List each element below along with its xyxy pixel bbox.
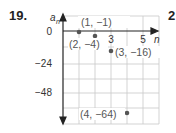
x-tick-3: 3: [108, 34, 114, 45]
scatter-plot: a n 0 −24 −48 3 5 n (1, −1) (2, −4) (3, …: [0, 0, 176, 133]
point-label-2: (2, −4): [69, 38, 100, 50]
point-label-3: (3, −16): [115, 46, 151, 58]
point-label-4: (4, −64): [80, 108, 116, 120]
y-tick-neg48: −48: [35, 87, 52, 98]
point-4: [125, 111, 130, 116]
y-axis-label-subscript: n: [56, 18, 60, 25]
point-1: [77, 30, 82, 35]
x-axis-label: n: [154, 34, 160, 45]
y-tick-neg24: −24: [35, 58, 52, 69]
point-3: [109, 49, 114, 54]
x-tick-5: 5: [140, 34, 146, 45]
point-label-1: (1, −1): [81, 16, 112, 28]
y-tick-0: 0: [46, 26, 52, 37]
